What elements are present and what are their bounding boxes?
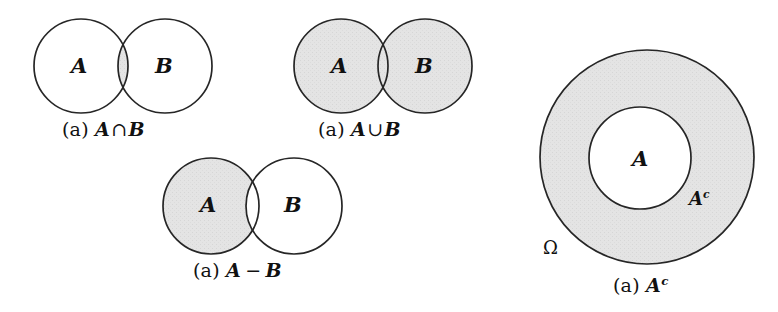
caption-union: (a) A∪B — [318, 118, 401, 140]
union-shaded-region — [294, 19, 472, 113]
caption-difference: (a) A−B — [193, 259, 282, 281]
caption-right-operand: B — [128, 118, 145, 140]
panel-intersection — [34, 19, 212, 113]
caption-right-operand: B — [384, 118, 401, 140]
caption-operator: ∪ — [366, 118, 384, 140]
caption-intersection: (a) A∩B — [62, 118, 145, 140]
caption-prefix: (a) — [62, 118, 89, 140]
set-label-a-complement-annulus: Ac — [689, 188, 710, 209]
difference-shaded-region — [150, 145, 360, 270]
caption-operator: ∩ — [110, 118, 128, 140]
set-label-b-intersection: B — [155, 53, 173, 78]
set-label-a-union: A — [331, 53, 347, 78]
caption-left-operand: A — [351, 118, 366, 140]
annulus-label-superscript: c — [703, 188, 710, 201]
venn-diagram-figure — [0, 0, 778, 312]
caption-prefix: (a) — [318, 118, 345, 140]
panel-difference — [150, 145, 360, 270]
panel-union — [294, 19, 472, 113]
set-label-a-intersection: A — [71, 53, 87, 78]
caption-right-operand: B — [265, 259, 282, 281]
universe-label-omega: Ω — [543, 237, 558, 258]
set-label-a-complement: A — [632, 146, 648, 171]
caption-left-operand: A — [95, 118, 110, 140]
caption-complement: (a) Ac — [613, 274, 669, 296]
caption-left-operand: A — [226, 259, 241, 281]
caption-superscript: c — [661, 274, 668, 288]
caption-prefix: (a) — [613, 274, 640, 296]
caption-prefix: (a) — [193, 259, 220, 281]
caption-operator: − — [241, 259, 265, 281]
set-label-b-difference: B — [284, 192, 302, 217]
caption-left-operand: A — [646, 274, 661, 296]
set-label-a-difference: A — [200, 192, 216, 217]
set-label-b-union: B — [415, 53, 433, 78]
annulus-label-base: A — [689, 188, 703, 209]
